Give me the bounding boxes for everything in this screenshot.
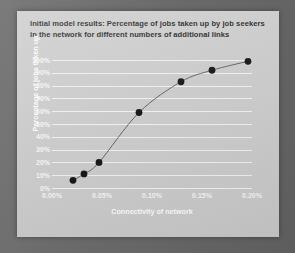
- y-tick-label: 40%: [26, 133, 50, 140]
- series-layer: [52, 60, 252, 188]
- chart-figure: 0%10%20%30%40%50%60%70%80%90%100% 0.00%0…: [17, 11, 279, 237]
- data-point: [245, 58, 252, 65]
- data-point: [209, 67, 216, 74]
- data-point: [136, 109, 143, 116]
- x-axis-line: [52, 188, 252, 189]
- plot-area: [52, 60, 252, 188]
- y-axis-title: Percentage of jobs taken up: [31, 36, 40, 132]
- y-tick-label: 10%: [26, 172, 50, 179]
- data-point: [178, 78, 185, 85]
- x-axis-tick-labels: 0.00%0.05%0.10%0.15%0.20%: [52, 192, 252, 204]
- y-tick-label: 30%: [26, 146, 50, 153]
- x-tick-label: 0.20%: [242, 192, 262, 199]
- data-point: [96, 159, 103, 166]
- slide-panel: Initial model results: Percentage of job…: [17, 11, 279, 237]
- y-tick-label: 20%: [26, 159, 50, 166]
- x-tick-label: 0.10%: [142, 192, 162, 199]
- screenshot-root: Initial model results: Percentage of job…: [0, 0, 295, 253]
- data-point: [70, 177, 77, 184]
- x-axis-title: Connectivity of network: [52, 207, 252, 216]
- data-point: [81, 171, 88, 178]
- x-tick-label: 0.15%: [192, 192, 212, 199]
- x-tick-label: 0.00%: [42, 192, 62, 199]
- y-tick-label: 0%: [26, 185, 50, 192]
- x-tick-label: 0.05%: [92, 192, 112, 199]
